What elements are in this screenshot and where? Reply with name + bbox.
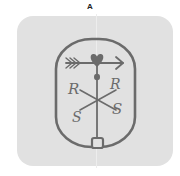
dot-icon: [94, 74, 100, 80]
letter-lower-left: S: [72, 109, 82, 125]
letter-lower-right: S: [112, 100, 122, 118]
base-square-icon: [92, 138, 103, 148]
weathervane-sigil-icon: R R S S: [0, 0, 180, 176]
letter-upper-left: R: [67, 80, 79, 98]
letter-upper-right: R: [109, 76, 121, 92]
heart-icon: [91, 54, 104, 67]
